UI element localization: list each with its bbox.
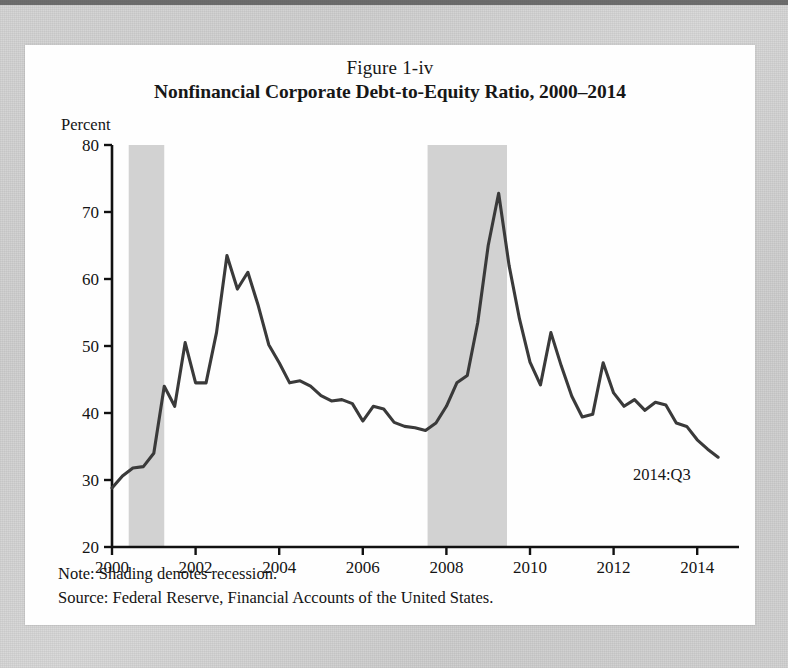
svg-text:20: 20 — [82, 538, 99, 557]
svg-text:60: 60 — [82, 270, 99, 289]
chart-axes — [104, 145, 739, 555]
chart-tick-labels: 2030405060708020002002200420062008201020… — [82, 136, 715, 577]
svg-text:2010: 2010 — [513, 558, 547, 577]
svg-text:2006: 2006 — [346, 558, 380, 577]
recession-band — [129, 145, 165, 547]
data-series-line — [112, 193, 718, 488]
svg-text:2014: 2014 — [680, 558, 715, 577]
figure-panel: Figure 1-iv Nonfinancial Corporate Debt-… — [25, 45, 755, 625]
svg-text:50: 50 — [82, 337, 99, 356]
svg-text:80: 80 — [82, 136, 99, 155]
line-chart: 2030405060708020002002200420062008201020… — [25, 45, 755, 625]
svg-text:30: 30 — [82, 471, 99, 490]
figure-source: Source: Federal Reserve, Financial Accou… — [58, 588, 493, 608]
svg-text:2012: 2012 — [597, 558, 631, 577]
figure-note: Note: Shading denotes recession. — [58, 564, 277, 584]
svg-text:70: 70 — [82, 203, 99, 222]
svg-text:2008: 2008 — [429, 558, 463, 577]
scanned-page: Figure 1-iv Nonfinancial Corporate Debt-… — [0, 0, 788, 668]
end-annotation: 2014:Q3 — [633, 465, 691, 485]
svg-text:40: 40 — [82, 404, 99, 423]
